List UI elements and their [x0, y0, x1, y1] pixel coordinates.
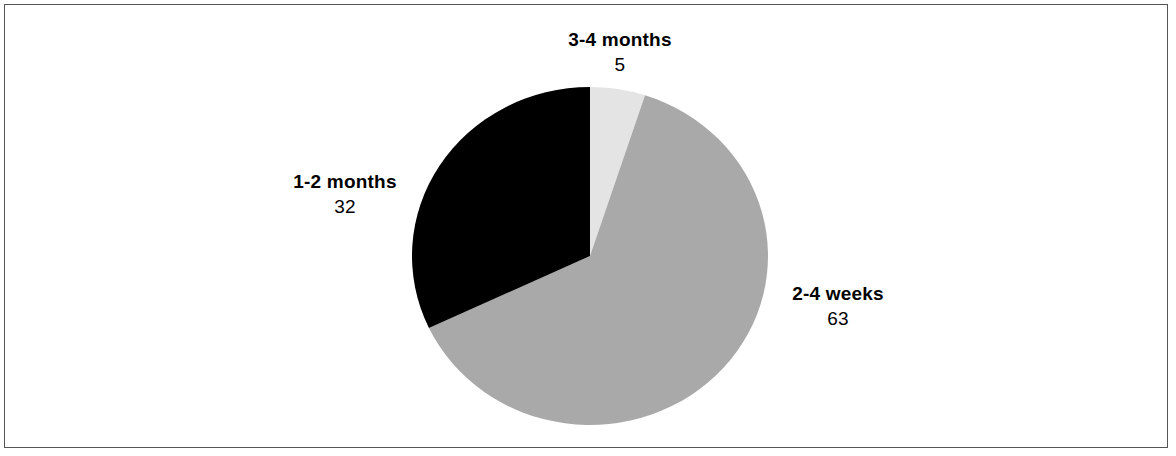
pie-label-3-4-months: 3-4 months 5 — [520, 28, 720, 77]
pie-label-name: 1-2 months — [245, 170, 445, 195]
pie-label-1-2-months: 1-2 months 32 — [245, 170, 445, 219]
pie-label-value: 63 — [738, 307, 938, 332]
chart-figure: 3-4 months 5 2-4 weeks 63 1-2 months 32 — [0, 0, 1176, 456]
pie-slices-group — [412, 87, 768, 425]
pie-label-name: 2-4 weeks — [738, 282, 938, 307]
pie-label-name: 3-4 months — [520, 28, 720, 53]
pie-label-value: 5 — [520, 53, 720, 78]
pie-label-2-4-weeks: 2-4 weeks 63 — [738, 282, 938, 331]
pie-label-value: 32 — [245, 195, 445, 220]
